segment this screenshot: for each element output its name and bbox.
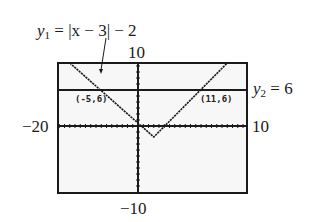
xmax-label: 10 — [252, 118, 269, 135]
intersection-label-left: (-5,6) — [75, 94, 108, 104]
viewing-window-frame — [58, 63, 247, 193]
intersection-label-right: (11,6) — [200, 94, 233, 104]
y2-equation-label: y2 = 6 — [253, 80, 293, 99]
y1-equation-label: y1 = |x − 3| − 2 — [37, 22, 137, 41]
ymax-label: 10 — [128, 44, 145, 61]
xmin-label: −20 — [22, 118, 49, 135]
graph-figure: y1 = |x − 3| − 2 10 y2 = 6 −20 10 −10 (-… — [0, 0, 323, 222]
ymin-label: −10 — [120, 200, 147, 217]
